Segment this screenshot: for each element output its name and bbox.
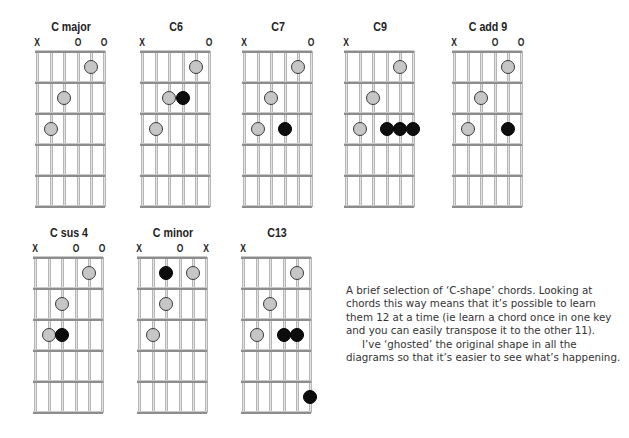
fretboard-grid bbox=[243, 51, 312, 207]
fretboard-grid bbox=[34, 257, 103, 413]
fret-line bbox=[140, 174, 210, 177]
ghost-finger-dot bbox=[353, 122, 367, 136]
finger-dot bbox=[278, 122, 292, 136]
string-line bbox=[480, 51, 483, 207]
open-string-marker: O bbox=[517, 37, 526, 48]
muted-string-marker: X bbox=[135, 243, 144, 254]
open-string-marker: O bbox=[71, 243, 80, 254]
string-line bbox=[90, 51, 93, 207]
string-line bbox=[101, 257, 104, 413]
string-line bbox=[269, 257, 272, 413]
fret-line bbox=[452, 50, 522, 53]
chord-diagram-c-sus-4: C sus 4XOO bbox=[34, 225, 134, 425]
fret-line bbox=[137, 380, 207, 383]
string-line bbox=[165, 257, 168, 413]
fretboard-grid bbox=[141, 51, 210, 207]
fret-line bbox=[137, 349, 207, 352]
fret-line bbox=[35, 174, 105, 177]
open-string-marker: O bbox=[73, 37, 82, 48]
ghost-finger-dot bbox=[146, 328, 160, 342]
ghost-finger-dot bbox=[186, 266, 200, 280]
open-string-marker: O bbox=[100, 37, 109, 48]
caption-paragraph-1: A brief selection of ‘C-shape’ chords. L… bbox=[346, 284, 626, 338]
ghost-finger-dot bbox=[501, 60, 515, 74]
fret-line bbox=[33, 411, 103, 414]
fret-line bbox=[242, 143, 312, 146]
string-line bbox=[179, 257, 182, 413]
open-string-marker: O bbox=[175, 243, 184, 254]
muted-string-marker: X bbox=[33, 37, 42, 48]
fret-line bbox=[35, 205, 105, 208]
string-line bbox=[345, 51, 348, 207]
fret-line bbox=[241, 380, 311, 383]
fret-line bbox=[452, 81, 522, 84]
string-line bbox=[168, 51, 171, 207]
caption: A brief selection of ‘C-shape’ chords. L… bbox=[346, 284, 626, 364]
finger-dot bbox=[159, 266, 173, 280]
fret-line bbox=[35, 112, 105, 115]
string-line bbox=[205, 257, 208, 413]
fretboard-grid bbox=[345, 51, 414, 207]
ghost-finger-dot bbox=[55, 297, 69, 311]
fret-line bbox=[140, 205, 210, 208]
fretboard-grid bbox=[242, 257, 311, 413]
chord-diagram-c6: C6XO bbox=[141, 19, 241, 219]
string-line bbox=[453, 51, 456, 207]
ghost-finger-dot bbox=[149, 122, 163, 136]
fret-line bbox=[344, 50, 414, 53]
ghost-finger-dot bbox=[474, 91, 488, 105]
ghost-finger-dot bbox=[159, 297, 173, 311]
ghost-finger-dot bbox=[291, 60, 305, 74]
fret-line bbox=[140, 143, 210, 146]
fret-line bbox=[452, 174, 522, 177]
fret-line bbox=[452, 205, 522, 208]
ghost-finger-dot bbox=[82, 266, 96, 280]
fret-line bbox=[452, 112, 522, 115]
chord-title: C13 bbox=[248, 225, 305, 240]
ghost-finger-dot bbox=[162, 91, 176, 105]
fret-line bbox=[344, 174, 414, 177]
open-string-marker: O bbox=[490, 37, 499, 48]
fret-line bbox=[137, 256, 207, 259]
fretboard-grid bbox=[453, 51, 522, 207]
chord-title: C sus 4 bbox=[40, 225, 97, 240]
ghost-finger-dot bbox=[251, 122, 265, 136]
fret-line bbox=[33, 380, 103, 383]
fret-line bbox=[241, 349, 311, 352]
string-line bbox=[36, 51, 39, 207]
finger-dot bbox=[393, 122, 407, 136]
ghost-finger-dot bbox=[44, 122, 58, 136]
fret-line bbox=[344, 205, 414, 208]
fret-line bbox=[344, 143, 414, 146]
muted-string-marker: X bbox=[240, 37, 249, 48]
fret-line bbox=[344, 81, 414, 84]
chord-title: C6 bbox=[147, 19, 204, 34]
fret-line bbox=[452, 143, 522, 146]
finger-dot bbox=[501, 122, 515, 136]
fret-line bbox=[137, 287, 207, 290]
chord-diagram-c-minor: C minorXOX bbox=[138, 225, 238, 425]
chord-diagram-c7: C7XO bbox=[243, 19, 343, 219]
fret-line bbox=[33, 256, 103, 259]
fret-line bbox=[140, 50, 210, 53]
ghost-finger-dot bbox=[42, 328, 56, 342]
string-line bbox=[208, 51, 211, 207]
string-line bbox=[34, 257, 37, 413]
fretboard-grid bbox=[138, 257, 207, 413]
ghost-finger-dot bbox=[250, 328, 264, 342]
fret-line bbox=[33, 349, 103, 352]
string-line bbox=[195, 51, 198, 207]
chord-title: C add 9 bbox=[459, 19, 516, 34]
open-string-marker: O bbox=[205, 37, 214, 48]
muted-string-marker: X bbox=[202, 243, 211, 254]
fret-line bbox=[242, 174, 312, 177]
fret-line bbox=[137, 318, 207, 321]
chord-diagram-c-major: C majorXOO bbox=[36, 19, 136, 219]
fret-line bbox=[241, 411, 311, 414]
string-line bbox=[297, 51, 300, 207]
fret-line bbox=[35, 50, 105, 53]
ghost-finger-dot bbox=[84, 60, 98, 74]
ghost-finger-dot bbox=[461, 122, 475, 136]
string-line bbox=[494, 51, 497, 207]
fret-line bbox=[140, 112, 210, 115]
